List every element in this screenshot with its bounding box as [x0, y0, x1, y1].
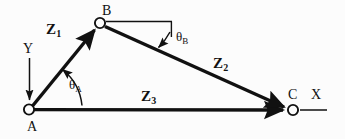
vector-z2-sub: 2	[223, 62, 228, 73]
vector-z2-label: Z2	[213, 56, 228, 73]
point-a-text: A	[27, 119, 37, 134]
vector-z1-line	[33, 30, 95, 106]
theta-b-sub: B	[182, 36, 188, 46]
theta-a-sub: A	[75, 84, 82, 94]
angle-theta-b-arc	[159, 32, 171, 48]
axis-x-text: X	[311, 87, 321, 102]
point-c-label: C	[288, 88, 297, 102]
joint-a-circle	[24, 104, 34, 114]
vector-z1-label: Z1	[46, 22, 61, 39]
vector-z3-sub: 3	[151, 95, 156, 106]
joint-b-circle	[95, 18, 105, 28]
angle-theta-a-label: θA	[69, 78, 82, 94]
joint-a-label-b: B	[102, 4, 111, 18]
vector-z3-base: Z	[141, 88, 151, 104]
joint-c-circle	[288, 105, 298, 115]
diagram-canvas: Z1 Z2 Z3 B A C X Y θA θB	[0, 0, 345, 139]
vector-z2-line	[105, 27, 284, 108]
axis-y-text: Y	[23, 41, 33, 56]
angle-theta-b-label: θB	[176, 30, 188, 46]
axis-y-label: Y	[23, 42, 33, 56]
point-b-text: B	[102, 3, 111, 18]
axis-x-label: X	[311, 88, 321, 102]
vector-z3-label: Z3	[141, 89, 156, 106]
vector-z1-base: Z	[46, 21, 56, 37]
point-c-text: C	[288, 87, 297, 102]
point-a-label: A	[27, 120, 37, 134]
vector-z1-sub: 1	[56, 28, 61, 39]
vector-z2-base: Z	[213, 55, 223, 71]
